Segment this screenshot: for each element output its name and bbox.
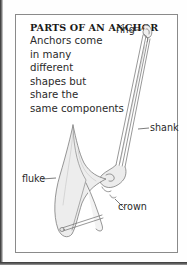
label-crown: crown <box>118 201 147 212</box>
page: PARTS OF AN ANCHOR Anchors come in many … <box>0 0 187 267</box>
page-edge-left <box>0 0 3 265</box>
anchor-fluke-icon <box>55 125 106 237</box>
shank-leader-line <box>138 128 149 129</box>
label-shank: shank <box>150 122 179 133</box>
label-fluke: fluke <box>22 173 45 184</box>
info-card: PARTS OF AN ANCHOR Anchors come in many … <box>15 14 178 253</box>
label-ring: ring <box>116 24 135 35</box>
page-edge-bottom <box>0 262 187 265</box>
anchor-illustration <box>16 15 177 252</box>
anchor-shank-icon <box>116 35 150 167</box>
anchor-crown-icon <box>100 165 126 198</box>
